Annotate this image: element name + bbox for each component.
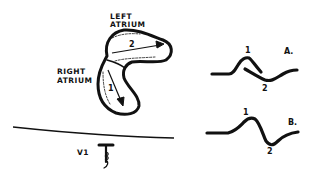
waveform-a-label-1: 1 — [245, 46, 251, 55]
waveform-a-label-2: 2 — [262, 84, 268, 93]
left-atrium-label-line2: ATRIUM — [110, 21, 145, 29]
v1-lead-label: V1 — [77, 149, 89, 157]
left-arrowhead-icon — [156, 41, 164, 48]
waveform-a-peak-2 — [245, 69, 297, 81]
left-atrial-vector-number: 2 — [129, 40, 135, 49]
atrial-diagram: LEFT ATRIUM RIGHT ATRIUM V1 2 1 1 2 A. 1… — [0, 0, 317, 182]
left-atrial-vector-arrow — [112, 45, 160, 53]
right-atrium-label-line2: ATRIUM — [57, 77, 92, 85]
right-atrial-vector-number: 1 — [108, 84, 114, 93]
chest-wall-line — [13, 127, 174, 138]
right-arrowhead-icon — [117, 97, 124, 106]
waveform-b — [207, 118, 298, 145]
waveform-b-label-2: 2 — [267, 147, 273, 156]
waveform-a-panel-label: A. — [284, 47, 293, 56]
v1-electrode-icon — [99, 145, 113, 168]
waveform-a-peak-1 — [212, 58, 261, 74]
waveform-b-label-1: 1 — [243, 108, 249, 117]
waveform-b-panel-label: B. — [288, 118, 297, 127]
right-atrium-label-line1: RIGHT — [57, 68, 86, 76]
